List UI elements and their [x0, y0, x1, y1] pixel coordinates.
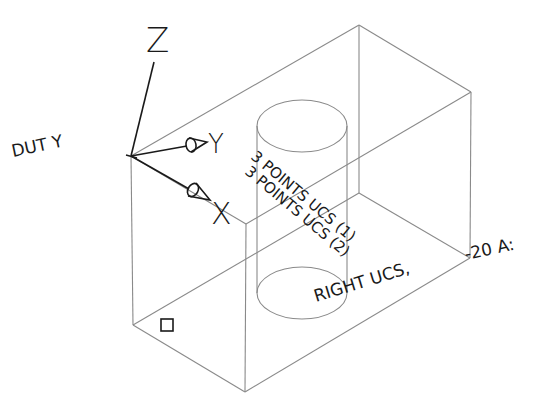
- y-axis-cone-icon: [185, 137, 207, 153]
- box-edge-vertical-right: [470, 92, 471, 258]
- box-edge-bottom-back-right: [359, 193, 470, 258]
- out-y-label: DUT Y: [10, 130, 65, 160]
- box-edge-vertical-left: [131, 156, 133, 325]
- box-edge-vertical-front: [245, 224, 246, 392]
- cad-viewport[interactable]: Z Y X DUT Y 3 POINTS UCS (1) 3 POINTS UC…: [0, 0, 545, 402]
- z-axis-line: [131, 62, 154, 156]
- ucs-note-1: 3 POINTS UCS (1): [247, 147, 359, 245]
- y-axis-label: Y: [208, 129, 224, 159]
- box-edge-bottom-front-left: [133, 325, 245, 392]
- right-ucs-label: RIGHT UCS,: [311, 258, 412, 306]
- z-axis-label: Z: [146, 20, 169, 60]
- x-axis-label: X: [211, 196, 232, 231]
- cylinder-top-ellipse: [257, 100, 347, 152]
- square-marker-icon: [161, 319, 173, 331]
- x-axis-line: [131, 156, 189, 189]
- ucs-axis-icon: Z Y X: [126, 20, 232, 231]
- box-edge-top-back-right: [359, 25, 471, 92]
